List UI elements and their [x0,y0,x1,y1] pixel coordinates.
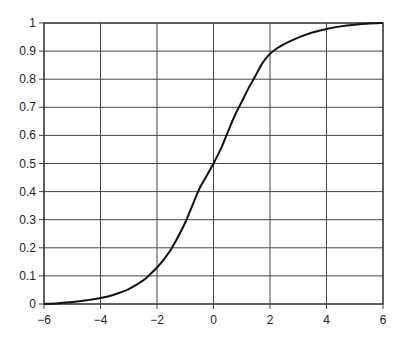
x-tick-label: −4 [94,313,108,327]
y-tick-label: 0.2 [19,241,36,255]
x-tick-label: 0 [210,313,217,327]
y-tick-label: 0.9 [19,44,36,58]
y-tick-label: 0.5 [19,157,36,171]
y-axis-ticks: 00.10.20.30.40.50.60.70.80.91 [19,16,36,311]
x-tick-label: −6 [37,313,51,327]
x-tick-label: 6 [380,313,387,327]
y-tick-label: 0.4 [19,185,36,199]
y-tick-label: 0.6 [19,128,36,142]
x-axis-ticks: −6−4−20246 [37,313,387,327]
grid-lines [39,23,383,309]
y-tick-label: 0.7 [19,100,36,114]
x-tick-label: −2 [150,313,164,327]
y-tick-label: 0.1 [19,269,36,283]
y-tick-label: 0 [29,297,36,311]
y-tick-label: 0.3 [19,213,36,227]
x-tick-label: 2 [267,313,274,327]
y-tick-label: 1 [29,16,36,30]
s-curve-chart: 00.10.20.30.40.50.60.70.80.91 −6−4−20246 [0,0,406,338]
y-tick-label: 0.8 [19,72,36,86]
x-tick-label: 4 [323,313,330,327]
